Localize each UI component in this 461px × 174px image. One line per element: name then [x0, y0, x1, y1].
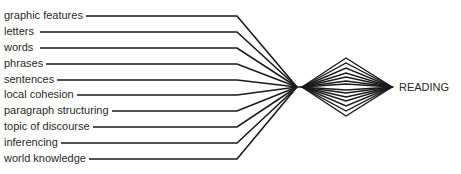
- input-label: world knowledge: [4, 152, 89, 164]
- connector-line: [40, 80, 297, 87]
- diamond-path: [302, 58, 392, 116]
- connector-line: [40, 48, 297, 87]
- input-label: sentences: [4, 73, 57, 85]
- connector-line: [40, 87, 297, 95]
- input-label: phrases: [4, 57, 46, 69]
- input-label: words: [4, 41, 36, 53]
- convergence-lines: [0, 0, 461, 174]
- input-label: inferencing: [4, 136, 61, 148]
- reading-label: READING: [399, 81, 449, 93]
- input-label: graphic features: [4, 9, 86, 21]
- connector-line: [40, 64, 297, 87]
- input-label: topic of discourse: [4, 120, 93, 132]
- input-label: local cohesion: [4, 88, 77, 100]
- input-label: letters: [4, 25, 37, 37]
- diamond-path: [302, 63, 392, 111]
- input-label: paragraph structuring: [4, 104, 112, 116]
